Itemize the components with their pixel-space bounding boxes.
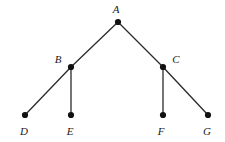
tree-diagram-figure: ABCDEFG — [0, 0, 225, 142]
tree-node-label-b: B — [55, 54, 62, 65]
tree-node-label-d: D — [20, 126, 28, 137]
tree-node-d — [22, 112, 28, 118]
tree-edge-a-c — [118, 22, 163, 67]
tree-node-label-e: E — [67, 126, 74, 137]
tree-node-a — [115, 19, 121, 25]
tree-node-c — [160, 64, 166, 70]
tree-node-label-g: G — [203, 126, 211, 137]
tree-node-e — [68, 112, 74, 118]
tree-node-f — [160, 112, 166, 118]
tree-graph-canvas — [0, 0, 225, 142]
tree-node-label-a: A — [113, 4, 120, 15]
tree-edge-b-d — [25, 67, 71, 115]
tree-node-label-c: C — [172, 54, 179, 65]
tree-edge-a-b — [71, 22, 118, 67]
tree-edge-c-g — [163, 67, 208, 115]
tree-node-label-f: F — [158, 126, 165, 137]
node-layer — [22, 19, 211, 118]
tree-node-b — [68, 64, 74, 70]
tree-node-g — [205, 112, 211, 118]
edge-layer — [25, 22, 208, 115]
